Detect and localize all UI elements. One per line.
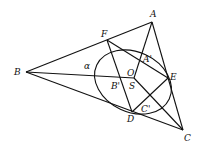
label-a: A [149, 9, 157, 19]
label-e: E [169, 72, 177, 82]
label-f: F [100, 29, 108, 39]
line-a-o [134, 22, 152, 78]
label-o: O [127, 68, 135, 78]
label-d: D [126, 114, 134, 124]
line-b-o [26, 72, 134, 78]
label-b-prime: B' [110, 81, 120, 91]
label-c: C [184, 133, 191, 143]
label-a-prime: A' [142, 54, 152, 64]
side-bc [26, 72, 183, 130]
label-s: S [129, 81, 135, 91]
label-b: B [13, 67, 21, 77]
geometry-diagram: A B C D E F O S A' B' C' α [0, 0, 203, 150]
label-c-prime: C' [141, 104, 150, 114]
label-alpha: α [84, 61, 90, 71]
